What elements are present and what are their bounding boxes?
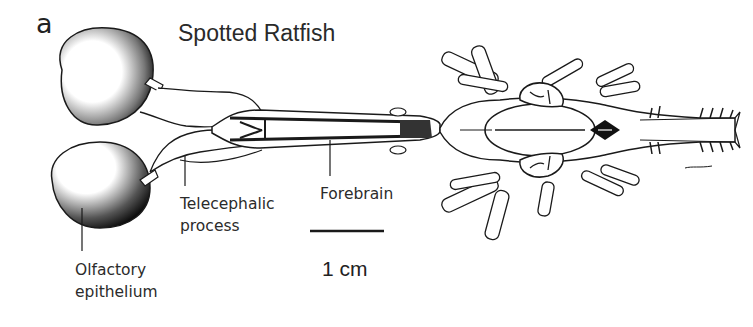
label-line: epithelium <box>75 281 158 303</box>
label-forebrain: Forebrain <box>320 183 393 205</box>
label-olfactory-epithelium: Olfactory epithelium <box>75 259 158 303</box>
label-telecephalic-process: Telecephalic process <box>180 193 275 237</box>
ratfish-brain-figure: a Spotted Ratfish Telecephalic process F… <box>0 0 753 327</box>
figure-title: Spotted Ratfish <box>178 22 335 45</box>
scale-bar-label: 1 cm <box>322 257 368 281</box>
forebrain-tract <box>212 108 440 154</box>
label-line: process <box>180 215 275 237</box>
label-line: Telecephalic <box>180 193 275 215</box>
brainstem-complex <box>440 44 740 241</box>
panel-letter: a <box>36 10 53 37</box>
artist-signature <box>685 166 712 168</box>
label-line: Olfactory <box>75 259 158 281</box>
